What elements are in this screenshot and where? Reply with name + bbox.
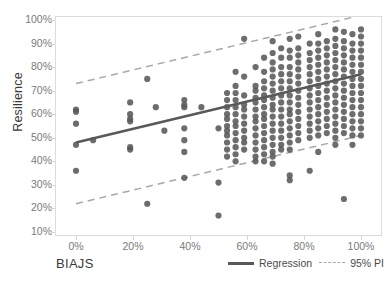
data-point <box>307 99 313 105</box>
data-point <box>295 33 301 39</box>
data-point <box>261 55 267 61</box>
y-tick-label: 70% <box>12 84 52 96</box>
data-point <box>233 151 239 157</box>
data-point <box>341 29 347 35</box>
data-point <box>307 113 313 119</box>
data-point <box>252 139 258 145</box>
data-point <box>270 161 276 167</box>
data-point <box>270 38 276 44</box>
data-point <box>332 36 338 42</box>
y-tick-label: 80% <box>12 60 52 72</box>
data-point <box>270 121 276 127</box>
data-point <box>270 128 276 134</box>
data-point <box>295 73 301 79</box>
data-point <box>324 59 330 65</box>
data-point <box>233 144 239 150</box>
data-point <box>332 99 338 105</box>
x-tick-label: 40% <box>167 240 213 252</box>
data-point <box>261 69 267 75</box>
data-point <box>349 111 355 117</box>
y-tick-label: 30% <box>12 178 52 190</box>
data-point <box>270 66 276 72</box>
data-point <box>252 88 258 94</box>
data-point <box>215 125 221 131</box>
data-point <box>358 97 364 103</box>
y-tick-label: 10% <box>12 225 52 237</box>
data-point <box>341 109 347 115</box>
data-point <box>233 90 239 96</box>
x-tick-mark <box>304 236 305 240</box>
data-point <box>358 26 364 32</box>
data-point <box>241 128 247 134</box>
data-point <box>332 92 338 98</box>
data-point <box>315 76 321 82</box>
data-point <box>287 132 293 138</box>
data-point <box>144 76 150 82</box>
data-point <box>287 177 293 183</box>
data-point <box>73 121 79 127</box>
data-point <box>252 106 258 112</box>
data-point <box>332 85 338 91</box>
data-point <box>181 149 187 155</box>
data-point <box>341 52 347 58</box>
data-point <box>233 69 239 75</box>
x-tick-label: 20% <box>110 240 156 252</box>
data-point <box>358 62 364 68</box>
data-point <box>233 123 239 129</box>
y-tick-mark <box>51 161 55 162</box>
legend-label-pi: 95% PI <box>350 258 384 269</box>
data-point <box>358 132 364 138</box>
data-point <box>144 201 150 207</box>
data-point <box>287 36 293 42</box>
data-point <box>127 146 133 152</box>
data-point <box>324 38 330 44</box>
data-point <box>341 123 347 129</box>
data-point <box>341 88 347 94</box>
data-point <box>332 64 338 70</box>
data-point <box>349 83 355 89</box>
data-point <box>358 55 364 61</box>
data-point <box>341 59 347 65</box>
data-point <box>241 73 247 79</box>
data-point <box>278 45 284 51</box>
data-point <box>307 64 313 70</box>
plot-svg <box>56 17 381 235</box>
data-point <box>358 90 364 96</box>
data-point <box>324 66 330 72</box>
data-point <box>324 123 330 129</box>
data-point <box>278 121 284 127</box>
data-point <box>287 111 293 117</box>
data-point <box>278 99 284 105</box>
data-point <box>332 113 338 119</box>
data-point <box>332 57 338 63</box>
data-point <box>241 36 247 42</box>
legend-item-regression: Regression <box>228 258 312 269</box>
data-point <box>241 113 247 119</box>
data-point <box>307 135 313 141</box>
pi-lower-line <box>76 135 361 203</box>
data-point <box>332 50 338 56</box>
data-point <box>358 118 364 124</box>
x-tick-mark <box>76 236 77 240</box>
data-point <box>252 132 258 138</box>
data-point <box>324 73 330 79</box>
data-point <box>233 130 239 136</box>
data-point <box>307 78 313 84</box>
y-axis-tick-labels: 10%20%30%40%50%60%70%80%90%100% <box>10 0 52 282</box>
data-point <box>307 128 313 134</box>
data-point <box>278 78 284 84</box>
data-point <box>324 130 330 136</box>
data-point <box>224 97 230 103</box>
data-point <box>261 123 267 129</box>
data-point <box>287 48 293 54</box>
data-point <box>295 123 301 129</box>
data-point <box>181 104 187 110</box>
data-point <box>270 142 276 148</box>
data-point <box>341 66 347 72</box>
data-point <box>315 69 321 75</box>
data-point <box>287 64 293 70</box>
x-tick-label: 60% <box>224 240 270 252</box>
data-point <box>278 135 284 141</box>
data-point <box>233 158 239 164</box>
data-point <box>341 196 347 202</box>
